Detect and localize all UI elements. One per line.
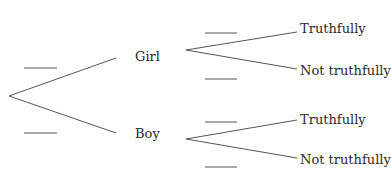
branch-girl-truthfully — [186, 32, 297, 50]
label-girl-not-truthfully: Not truthfully — [300, 64, 391, 77]
branch-boy-not-truthfully — [186, 139, 297, 158]
label-boy-not-truthfully: Not truthfully — [300, 153, 391, 166]
label-girl-truthfully: Truthfully — [300, 22, 366, 35]
branch-boy-truthfully — [186, 120, 297, 139]
branch-root-girl — [9, 58, 116, 96]
branch-root-boy — [9, 96, 116, 133]
label-girl: Girl — [135, 50, 160, 63]
branch-girl-not-truthfully — [186, 50, 297, 69]
label-boy-truthfully: Truthfully — [300, 113, 366, 126]
label-boy: Boy — [135, 127, 160, 140]
